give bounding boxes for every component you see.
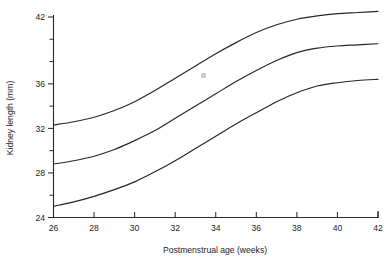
x-tick-label: 32 bbox=[170, 223, 180, 233]
y-axis-ticks bbox=[48, 17, 54, 218]
x-tick-label: 26 bbox=[49, 223, 59, 233]
x-tick-label: 42 bbox=[373, 223, 383, 233]
y-axis-tick-labels: 2428323642 bbox=[35, 12, 45, 223]
curve-lower bbox=[54, 79, 379, 206]
chart-svg: 2428323642 262830323436384042 Postmenstr… bbox=[0, 0, 389, 262]
y-tick-label: 28 bbox=[35, 168, 45, 178]
x-axis-tick-labels: 262830323436384042 bbox=[49, 223, 383, 233]
curve-upper bbox=[54, 11, 379, 125]
plot-axes bbox=[53, 15, 379, 218]
curve-median bbox=[54, 44, 379, 164]
scan-artifact-mark bbox=[201, 73, 206, 78]
y-tick-label: 42 bbox=[35, 12, 45, 22]
x-tick-label: 36 bbox=[252, 223, 262, 233]
x-tick-label: 40 bbox=[333, 223, 343, 233]
y-axis-title: Kidney length (mm) bbox=[5, 81, 15, 156]
y-tick-label: 36 bbox=[35, 79, 45, 89]
x-tick-label: 38 bbox=[292, 223, 302, 233]
y-tick-label: 32 bbox=[35, 124, 45, 134]
y-tick-label: 24 bbox=[35, 213, 45, 223]
x-tick-label: 30 bbox=[130, 223, 140, 233]
x-tick-label: 28 bbox=[89, 223, 99, 233]
percentile-curves bbox=[54, 11, 379, 206]
x-tick-label: 34 bbox=[211, 223, 221, 233]
x-axis-title: Postmenstrual age (weeks) bbox=[163, 245, 267, 255]
kidney-length-chart: 2428323642 262830323436384042 Postmenstr… bbox=[0, 0, 389, 262]
x-axis-ticks bbox=[54, 212, 379, 218]
